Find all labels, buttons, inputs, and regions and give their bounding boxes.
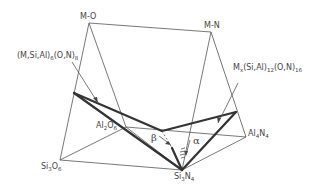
alpha-symbol: α bbox=[193, 136, 200, 146]
vertex-label-al4n4: Al4N4 bbox=[248, 130, 269, 140]
vertex-label-m-n: M-N bbox=[204, 22, 220, 30]
phase-label-beta-sialon: (M,Si,Al)6(O,N)8 bbox=[17, 52, 78, 62]
phase-diagram bbox=[0, 0, 313, 188]
vertex-label-m-o: M-O bbox=[80, 13, 96, 21]
prism-edges bbox=[60, 23, 246, 170]
hatch-marks bbox=[180, 148, 185, 158]
phase-label-alpha-sialon: Mx(Si,Al)12(O,N)16 bbox=[233, 64, 302, 74]
vertex-label-al2o6: Al2O6 bbox=[96, 122, 117, 132]
beta-symbol: β bbox=[151, 133, 157, 143]
vertex-label-si3n4: Si3N4 bbox=[174, 173, 194, 183]
vertex-label-si3o6: Si3O6 bbox=[41, 163, 62, 173]
